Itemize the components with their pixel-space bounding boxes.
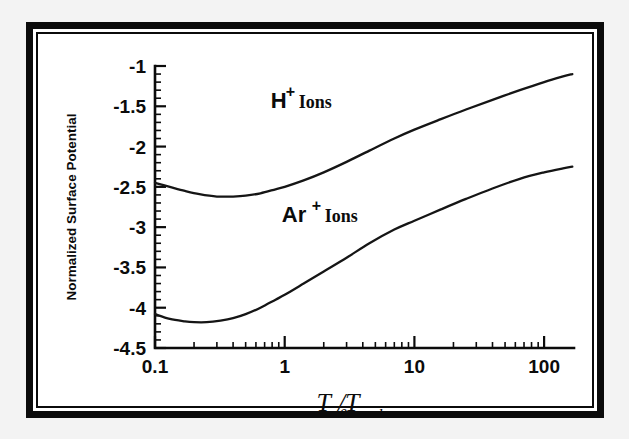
annotation-symbol: Ar [282,202,307,227]
annotation-charge-superscript: + [286,83,295,100]
data-curve-h-ions [155,74,572,197]
y-axis-tick-label: -3 [129,217,146,238]
y-axis-tick-label: -1 [129,56,146,77]
axis-lines [155,66,574,348]
x-axis-title-sub-i: i [379,403,383,420]
figure-inner-border: -1-1.5-2-2.5-3-3.5-4-4.50.1110100 H+Ions… [36,32,594,408]
x-axis-title: Te/Ti [317,388,384,420]
annotation-charge-superscript: + [312,197,321,214]
y-axis-title: Normalized Surface Potential [64,114,79,301]
annotation-word: Ions [299,92,332,112]
y-axis-tick-label: -4 [129,298,146,319]
annotation-ar-ions: Ar+Ions [282,197,358,227]
figure-outer-border: -1-1.5-2-2.5-3-3.5-4-4.50.1110100 H+Ions… [26,22,604,418]
data-curves-layer [155,74,572,322]
annotation-h-ions: H+Ions [271,83,332,113]
x-axis-title-slash-t: /T [336,388,361,417]
data-curve-ar-ions [155,167,572,323]
chart-plot-area: -1-1.5-2-2.5-3-3.5-4-4.50.1110100 H+Ions… [38,34,616,430]
axis-titles-layer: Normalized Surface PotentialTe/Ti [64,114,383,420]
y-axis-tick-label: -2 [129,137,146,158]
annotation-symbol: H [271,88,287,113]
y-axis-tick-label: -2.5 [113,177,146,198]
y-axis-tick-label: -1.5 [113,96,146,117]
x-axis-tick-label: 1 [279,356,290,377]
x-axis-tick-label: 100 [528,356,560,377]
curve-annotations-layer: H+IonsAr+Ions [271,83,358,227]
figure-root: -1-1.5-2-2.5-3-3.5-4-4.50.1110100 H+Ions… [0,0,629,439]
y-axis-title-text: Normalized Surface Potential [64,114,79,301]
x-axis-tick-label: 10 [404,356,425,377]
annotation-word: Ions [325,206,358,226]
x-axis-title-base: T [317,388,333,417]
axes-layer [155,66,574,348]
y-axis-tick-label: -3.5 [113,257,146,278]
x-axis-tick-label: 0.1 [142,356,169,377]
